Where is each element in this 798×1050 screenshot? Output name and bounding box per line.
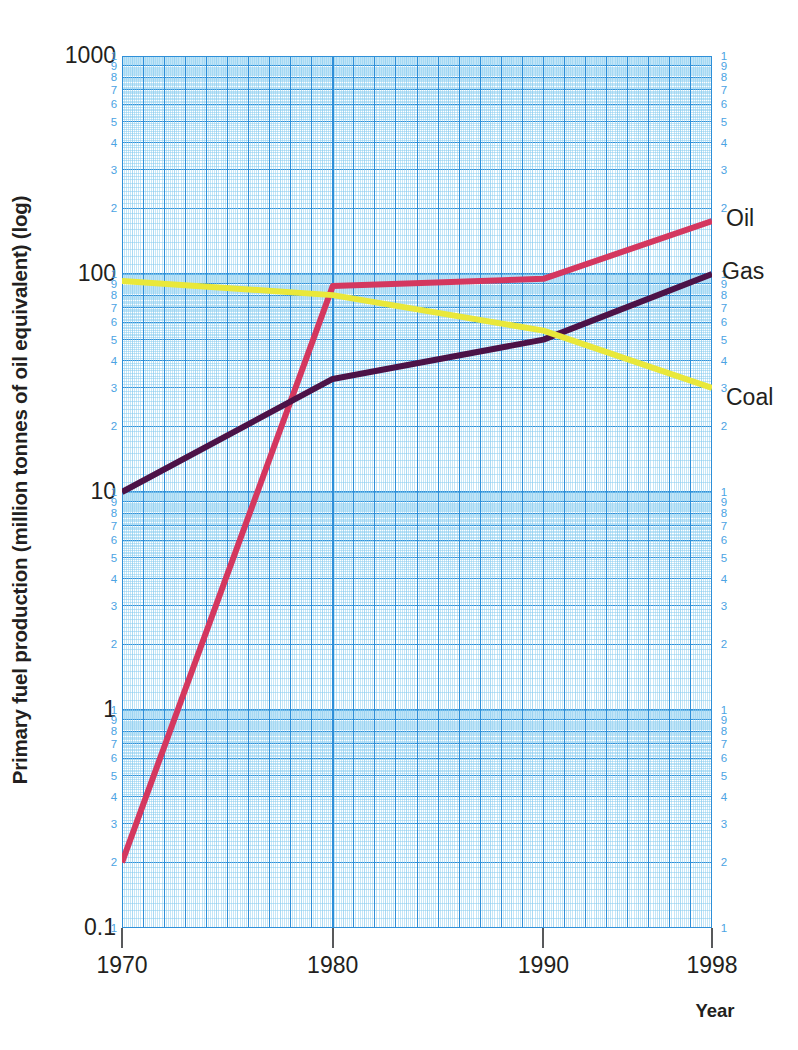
y-minor-tick-right-6: 6 xyxy=(716,99,732,111)
y-minor-tick-left-5: 5 xyxy=(106,334,122,346)
y-minor-tick-left-5: 5 xyxy=(106,770,122,782)
y-minor-tick-right-4: 4 xyxy=(716,791,732,803)
y-minor-tick-right-4: 4 xyxy=(716,355,732,367)
series-label-oil: Oil xyxy=(726,207,754,230)
y-minor-tick-right-7: 7 xyxy=(716,302,732,314)
y-minor-tick-right-3: 3 xyxy=(716,600,732,612)
y-minor-tick-right-2: 2 xyxy=(716,421,732,433)
y-minor-tick-right-2: 2 xyxy=(716,857,732,869)
y-minor-tick-left-4: 4 xyxy=(106,791,122,803)
y-minor-tick-left-3: 3 xyxy=(106,382,122,394)
y-minor-tick-left-8: 8 xyxy=(106,290,122,302)
chart-figure: Primary fuel production (million tonnes … xyxy=(0,0,798,1050)
y-minor-tick-left-6: 6 xyxy=(106,99,122,111)
y-minor-tick-left-2: 2 xyxy=(106,203,122,215)
x-axis-label-1998: 1998 xyxy=(657,952,767,979)
x-axis-title: Year xyxy=(660,1000,770,1022)
series-label-coal: Coal xyxy=(726,386,773,409)
y-minor-tick-right-8: 8 xyxy=(716,72,732,84)
y-axis-label-1: 1 xyxy=(0,698,116,721)
y-axis-decade-labels: 10001001010.1 xyxy=(0,0,116,1050)
y-minor-tick-left-6: 6 xyxy=(106,535,122,547)
y-minor-tick-left-8: 8 xyxy=(106,72,122,84)
y-minor-tick-left-8: 8 xyxy=(106,508,122,520)
y-minor-tick-left-2: 2 xyxy=(106,421,122,433)
y-axis-label-10: 10 xyxy=(0,480,116,503)
y-minor-tick-right-7: 7 xyxy=(716,520,732,532)
x-axis-label-1970: 1970 xyxy=(67,952,177,979)
y-minor-tick-right-3: 3 xyxy=(716,164,732,176)
y-minor-tick-left-1: 1 xyxy=(106,923,122,935)
y-minor-tick-left-3: 3 xyxy=(106,600,122,612)
y-minor-tick-left-7: 7 xyxy=(106,302,122,314)
plot-area xyxy=(122,56,712,928)
y-minor-tick-left-2: 2 xyxy=(106,639,122,651)
x-axis-label-1980: 1980 xyxy=(278,952,388,979)
y-minor-tick-right-7: 7 xyxy=(716,738,732,750)
y-minor-tick-left-5: 5 xyxy=(106,116,122,128)
y-axis-label-100: 100 xyxy=(0,262,116,285)
y-axis-minor-ticks-right: 1987654321987654321987654321987654321 xyxy=(716,0,732,1050)
x-axis-label-1990: 1990 xyxy=(488,952,598,979)
grid-layer xyxy=(122,56,712,928)
y-minor-tick-right-8: 8 xyxy=(716,290,732,302)
y-minor-tick-left-7: 7 xyxy=(106,738,122,750)
y-minor-tick-left-4: 4 xyxy=(106,355,122,367)
x-axis-tick-1990 xyxy=(542,928,544,948)
y-axis-minor-ticks-left: 1987654321987654321987654321987654321 xyxy=(106,0,122,1050)
series-label-gas: Gas xyxy=(722,260,764,283)
y-minor-tick-left-8: 8 xyxy=(106,726,122,738)
y-minor-tick-right-7: 7 xyxy=(716,84,732,96)
y-minor-tick-right-5: 5 xyxy=(716,116,732,128)
y-minor-tick-right-4: 4 xyxy=(716,137,732,149)
y-minor-tick-left-7: 7 xyxy=(106,84,122,96)
x-axis-tick-1998 xyxy=(711,928,713,948)
y-minor-tick-right-2: 2 xyxy=(716,639,732,651)
y-minor-tick-left-7: 7 xyxy=(106,520,122,532)
y-axis-label-1000: 1000 xyxy=(0,44,116,67)
y-minor-tick-left-3: 3 xyxy=(106,818,122,830)
y-minor-tick-right-8: 8 xyxy=(716,508,732,520)
y-minor-tick-right-8: 8 xyxy=(716,726,732,738)
y-minor-tick-right-5: 5 xyxy=(716,334,732,346)
y-minor-tick-right-5: 5 xyxy=(716,552,732,564)
y-axis-label-0p1: 0.1 xyxy=(0,916,116,939)
y-minor-tick-right-5: 5 xyxy=(716,770,732,782)
x-axis-tick-1970 xyxy=(121,928,123,948)
y-minor-tick-left-5: 5 xyxy=(106,552,122,564)
x-axis-tick-1980 xyxy=(332,928,334,948)
y-minor-tick-right-1: 1 xyxy=(716,923,732,935)
y-minor-tick-right-6: 6 xyxy=(716,317,732,329)
y-minor-tick-left-2: 2 xyxy=(106,857,122,869)
y-minor-tick-left-6: 6 xyxy=(106,317,122,329)
y-minor-tick-right-3: 3 xyxy=(716,818,732,830)
plot-svg xyxy=(122,56,712,928)
y-minor-tick-left-4: 4 xyxy=(106,137,122,149)
y-minor-tick-right-6: 6 xyxy=(716,753,732,765)
y-minor-tick-right-4: 4 xyxy=(716,573,732,585)
y-minor-tick-left-4: 4 xyxy=(106,573,122,585)
y-minor-tick-left-3: 3 xyxy=(106,164,122,176)
y-minor-tick-right-6: 6 xyxy=(716,535,732,547)
y-minor-tick-left-6: 6 xyxy=(106,753,122,765)
